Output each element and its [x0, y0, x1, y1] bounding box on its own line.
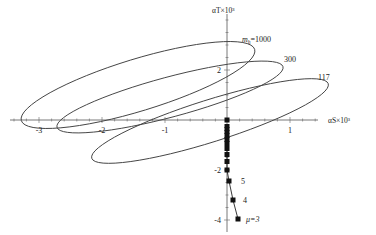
- x-tick-label: -2: [99, 126, 106, 135]
- ellipse-mh-117: [85, 64, 334, 179]
- x-axis-label: αS×10³: [328, 116, 351, 125]
- y-tick-label: -4: [214, 216, 221, 225]
- x-tick-label: 1: [288, 126, 292, 135]
- ellipse-label-300: 300: [284, 55, 296, 64]
- mu-label-5: 5: [241, 177, 245, 186]
- mu-label-3: μ=3: [245, 215, 259, 224]
- x-tick-label: -1: [162, 126, 169, 135]
- chart-plot: -3 -2 -1 1 2 -2 -4 αS×10³ αT×10³ mh=1000…: [0, 0, 376, 235]
- y-tick-label: 2: [217, 66, 221, 75]
- x-tick-label: -3: [36, 126, 43, 135]
- ellipse-label-117: 117: [318, 73, 330, 82]
- y-axis-label: αT×10³: [212, 6, 235, 15]
- y-tick-label: -2: [214, 166, 221, 175]
- mu-label-4: 4: [243, 196, 247, 205]
- ellipse-label-1000: mh=1000: [242, 35, 271, 45]
- ellipse-mh-300: [52, 47, 288, 146]
